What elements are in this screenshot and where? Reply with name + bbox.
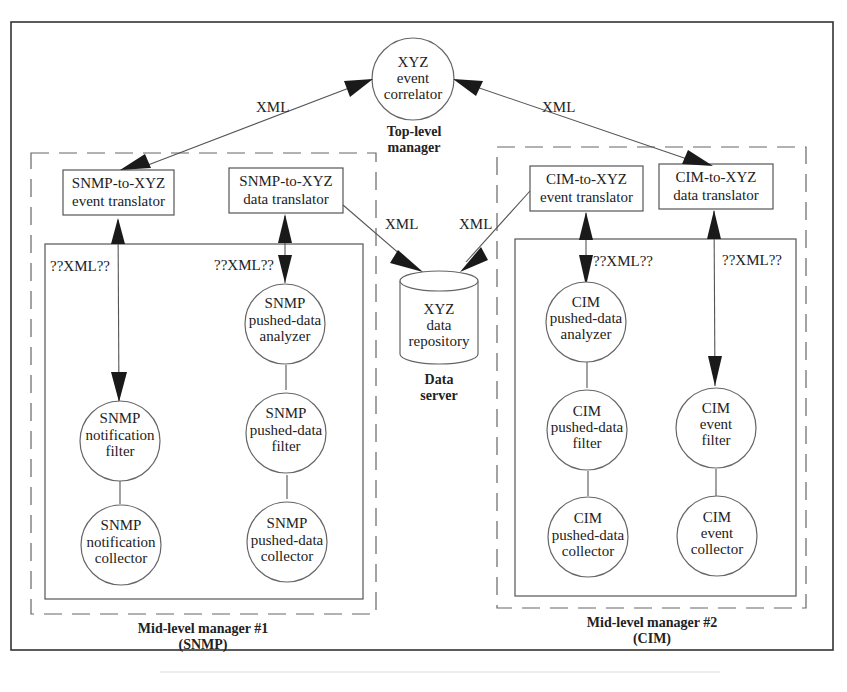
svg-text:collector: collector (691, 541, 743, 557)
arrow-icon (682, 150, 713, 166)
arrow-up-icon (579, 212, 593, 240)
cim-pushed-data-analyzer: CIM pushed-data analyzer (546, 282, 626, 362)
svg-text:CIM: CIM (702, 400, 730, 416)
svg-text:SNMP: SNMP (100, 410, 141, 426)
svg-text:CIM: CIM (574, 510, 602, 526)
cim-pushed-data-filter: CIM pushed-data filter (547, 390, 627, 470)
svg-text:pushed-data: pushed-data (250, 422, 323, 438)
arrow-up-icon (111, 218, 125, 244)
svg-text:repository: repository (409, 333, 470, 349)
svg-text:event translator: event translator (540, 189, 633, 205)
svg-text:SNMP: SNMP (265, 295, 306, 311)
svg-text:filter: filter (105, 443, 134, 459)
top-level-manager: XYZ event correlator Top-level manager (372, 38, 454, 155)
top-level-manager-label: Top-level (387, 124, 442, 139)
svg-text:server: server (420, 388, 457, 403)
svg-text:analyzer: analyzer (561, 326, 612, 342)
svg-text:notification: notification (86, 534, 156, 550)
svg-text:XYZ: XYZ (424, 301, 455, 317)
arrow-icon (390, 250, 423, 272)
svg-text:filter: filter (271, 438, 300, 454)
snmp-notification-filter: SNMP notification filter (80, 401, 160, 481)
svg-text:filter: filter (701, 432, 730, 448)
edge-label-xml: XML (256, 99, 289, 115)
svg-text:correlator: correlator (384, 86, 442, 102)
cim-event-filter: CIM event filter (676, 388, 756, 468)
edge-label-qxml: ??XML?? (50, 258, 110, 274)
correlator-snmp-edge (148, 80, 370, 165)
svg-text:SNMP-to-XYZ: SNMP-to-XYZ (239, 173, 332, 189)
svg-text:event: event (701, 525, 734, 541)
svg-text:CIM: CIM (703, 509, 731, 525)
mid-manager-1-label: Mid-level manager #1 (138, 621, 268, 636)
cim-event-translator: CIM-to-XYZ event translator (530, 166, 643, 211)
snmp-data-translator: SNMP-to-XYZ data translator (229, 168, 343, 213)
svg-text:SNMP: SNMP (266, 405, 307, 421)
snmp-pushed-data-collector: SNMP pushed-data collector (247, 502, 327, 582)
svg-text:collector: collector (95, 550, 147, 566)
arrow-icon (344, 79, 373, 97)
xyz-data-repository: XYZ data repository (400, 271, 478, 364)
svg-text:collector: collector (562, 543, 614, 559)
arrow-up-icon (707, 210, 721, 239)
edge-label-qxml: ??XML?? (593, 253, 653, 269)
edge-label-xml: XML (459, 216, 492, 232)
svg-text:SNMP: SNMP (267, 515, 308, 531)
architecture-diagram: SNMP-to-XYZ event translator SNMP-to-XYZ… (0, 0, 847, 692)
svg-text:CIM: CIM (572, 294, 600, 310)
svg-text:CIM-to-XYZ: CIM-to-XYZ (676, 169, 757, 185)
mid-manager-2-sublabel: (CIM) (633, 631, 671, 647)
svg-text:filter: filter (572, 435, 601, 451)
svg-text:manager: manager (388, 140, 441, 155)
svg-text:SNMP: SNMP (101, 517, 142, 533)
snmp-pushed-data-analyzer: SNMP pushed-data analyzer (245, 284, 325, 364)
svg-text:analyzer: analyzer (260, 328, 311, 344)
snmp-event-translator: SNMP-to-XYZ event translator (63, 170, 174, 215)
correlator-cim-edge (456, 80, 690, 160)
svg-text:pushed-data: pushed-data (550, 310, 623, 326)
svg-text:data translator: data translator (243, 191, 328, 207)
mid-manager-1-sublabel: (SNMP) (179, 637, 228, 653)
svg-text:pushed-data: pushed-data (251, 532, 324, 548)
snmp-notification-collector: SNMP notification collector (81, 505, 161, 585)
edge-label-qxml: ??XML?? (214, 257, 274, 273)
cim-event-collector: CIM event collector (677, 496, 757, 576)
data-server: XYZ data repository Data server (400, 271, 478, 403)
arrow-icon (120, 154, 151, 170)
arrow-icon (460, 247, 488, 272)
svg-text:data: data (427, 317, 452, 333)
mid-level-manager-1: SNMP-to-XYZ event translator SNMP-to-XYZ… (31, 153, 376, 653)
edge-label-xml: XML (542, 99, 575, 115)
svg-text:notification: notification (85, 427, 155, 443)
svg-text:pushed-data: pushed-data (552, 527, 625, 543)
svg-text:CIM-to-XYZ: CIM-to-XYZ (546, 171, 627, 187)
svg-text:data translator: data translator (673, 187, 758, 203)
data-server-label: Data (425, 372, 454, 387)
snmp-pushed-data-filter: SNMP pushed-data filter (246, 393, 326, 473)
svg-text:SNMP-to-XYZ: SNMP-to-XYZ (72, 175, 165, 191)
svg-text:event: event (397, 70, 430, 86)
cim-data-translator: CIM-to-XYZ data translator (659, 164, 773, 209)
svg-text:pushed-data: pushed-data (551, 419, 624, 435)
arrow-icon (453, 79, 483, 96)
cim-pushed-data-collector: CIM pushed-data collector (548, 497, 628, 577)
svg-text:event translator: event translator (72, 193, 165, 209)
svg-text:pushed-data: pushed-data (249, 312, 322, 328)
svg-text:event: event (700, 416, 733, 432)
edge-label-xml: XML (385, 216, 418, 232)
mid-level-manager-2: CIM-to-XYZ event translator CIM-to-XYZ d… (497, 147, 806, 647)
svg-text:CIM: CIM (573, 403, 601, 419)
edge-label-qxml: ??XML?? (722, 252, 782, 268)
svg-text:XYZ: XYZ (398, 54, 429, 70)
svg-text:collector: collector (261, 548, 313, 564)
mid-manager-2-label: Mid-level manager #2 (587, 615, 717, 630)
arrow-up-icon (278, 214, 292, 243)
